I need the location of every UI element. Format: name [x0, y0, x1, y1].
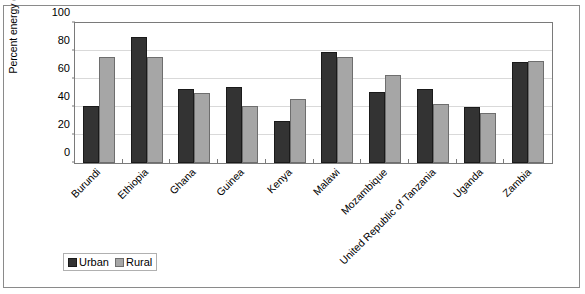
y-axis-tick-label: 60: [58, 62, 70, 74]
x-axis-label-cell: Zambia: [505, 164, 553, 252]
legend-item-urban: Urban: [68, 256, 109, 268]
bar-rural: [290, 99, 306, 163]
y-axis-tick-label: 80: [58, 34, 70, 46]
chart-legend: UrbanRural: [63, 253, 157, 271]
bar-rural: [194, 93, 210, 163]
bar-group: [266, 23, 314, 163]
bar-rural: [433, 104, 449, 163]
y-axis-title: Percent energy deficient: [7, 0, 19, 88]
bar-urban: [464, 107, 480, 163]
bar-urban: [417, 89, 433, 163]
bar-group: [409, 23, 457, 163]
bar-rural: [480, 113, 496, 163]
bar-rural: [528, 61, 544, 163]
bar-urban: [131, 37, 147, 163]
legend-label: Rural: [126, 256, 152, 268]
bar-urban: [512, 62, 528, 163]
bar-rural: [242, 106, 258, 163]
bar-group: [170, 23, 218, 163]
x-axis-labels: BurundiEthiopiaGhanaGuineaKenyaMalawiMoz…: [74, 164, 553, 252]
legend-swatch-urban: [68, 258, 77, 267]
bar-rural: [99, 57, 115, 163]
bar-rural: [385, 75, 401, 163]
legend-swatch-rural: [115, 258, 124, 267]
x-axis-label-cell: Uganda: [457, 164, 505, 252]
bar-urban: [178, 89, 194, 163]
x-axis-tick-label: Ghana: [167, 166, 198, 197]
y-axis-tick-label: 40: [58, 90, 70, 102]
legend-item-rural: Rural: [115, 256, 152, 268]
x-axis-label-cell: Kenya: [266, 164, 314, 252]
bar-urban: [321, 52, 337, 163]
bar-group: [218, 23, 266, 163]
x-axis-label-cell: Ghana: [170, 164, 218, 252]
x-axis-tick-label: Burundi: [68, 166, 102, 200]
bar-group: [314, 23, 362, 163]
legend-label: Urban: [79, 256, 109, 268]
bar-rural: [147, 57, 163, 163]
y-axis-tick-label: 100: [52, 6, 70, 18]
x-axis-label-cell: Ethiopia: [122, 164, 170, 252]
bar-rural: [337, 57, 353, 163]
x-axis-tick-label: Zambia: [500, 166, 533, 199]
bar-group: [504, 23, 552, 163]
y-axis-tick-label: 0: [64, 146, 70, 158]
bar-group: [123, 23, 171, 163]
bar-groups: [75, 23, 552, 163]
bar-urban: [83, 106, 99, 163]
bar-group: [457, 23, 505, 163]
bar-urban: [274, 121, 290, 163]
x-axis-label-cell: Burundi: [74, 164, 122, 252]
bar-urban: [369, 92, 385, 163]
plot-area: 020406080100: [74, 22, 553, 164]
x-axis-tick-label: Kenya: [264, 166, 294, 196]
x-axis-label-cell: Guinea: [218, 164, 266, 252]
bar-urban: [226, 87, 242, 163]
chart-figure: 020406080100 Percent energy deficient Bu…: [3, 5, 580, 288]
x-axis-label-cell: United Republic of Tanzania: [409, 164, 457, 252]
x-axis-tick-label: Guinea: [213, 166, 245, 198]
y-axis-tick-label: 20: [58, 118, 70, 130]
bar-group: [361, 23, 409, 163]
x-axis-tick-label: Malawi: [310, 166, 342, 198]
bar-group: [75, 23, 123, 163]
